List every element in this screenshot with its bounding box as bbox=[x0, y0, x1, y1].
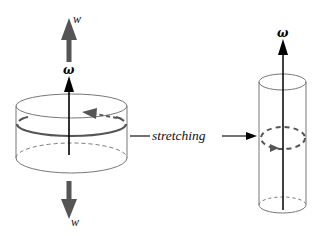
right-cylinder bbox=[259, 39, 306, 213]
down-force-arrow-icon bbox=[61, 181, 77, 219]
stretching-arrow-icon bbox=[222, 132, 257, 140]
right-vorticity-axis-arrow-icon bbox=[278, 39, 288, 210]
left-omega-label: ω bbox=[63, 63, 75, 77]
top-w-label: w bbox=[73, 12, 81, 26]
vorticity-axis-arrow-icon bbox=[64, 76, 74, 155]
vortex-stretching-diagram: w w ω stretching ω bbox=[0, 0, 322, 236]
stretching-label: stretching bbox=[152, 128, 206, 143]
right-omega-label: ω bbox=[277, 26, 289, 40]
bottom-w-label: w bbox=[71, 215, 79, 229]
right-rotation-arrow-icon bbox=[270, 144, 279, 152]
left-cylinder bbox=[16, 76, 127, 173]
